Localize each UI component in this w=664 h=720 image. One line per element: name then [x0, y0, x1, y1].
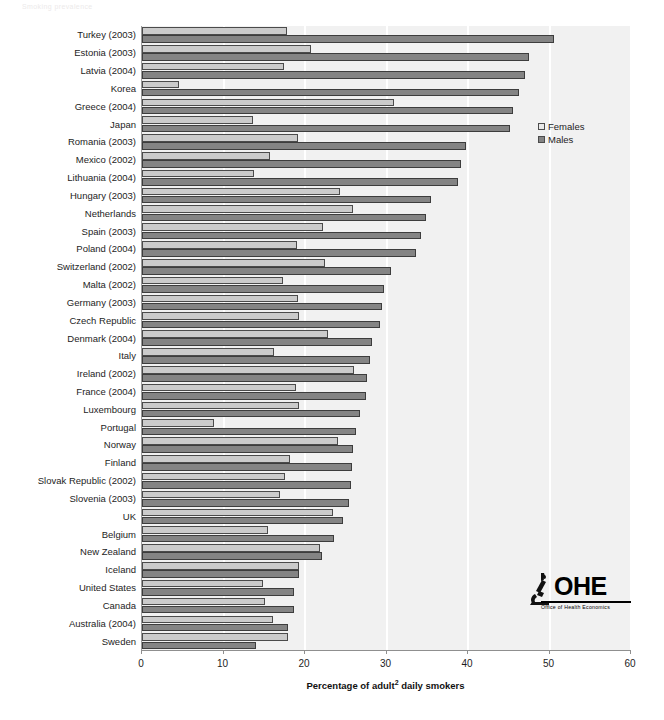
- bar-males[interactable]: [142, 410, 360, 418]
- y-axis-label: Belgium: [0, 529, 136, 540]
- bar-males[interactable]: [142, 89, 519, 97]
- bar-males[interactable]: [142, 552, 322, 560]
- bar-females[interactable]: [142, 455, 290, 463]
- bar-males[interactable]: [142, 142, 466, 150]
- y-axis-label: New Zealand: [0, 546, 136, 557]
- y-axis-label: Denmark (2004): [0, 333, 136, 344]
- bar-females[interactable]: [142, 277, 283, 285]
- bar-males[interactable]: [142, 517, 343, 525]
- bar-males[interactable]: [142, 285, 384, 293]
- x-tick-mark-50: [549, 650, 550, 654]
- bar-females[interactable]: [142, 170, 254, 178]
- bar-females[interactable]: [142, 598, 265, 606]
- bar-males[interactable]: [142, 35, 554, 43]
- bar-females[interactable]: [142, 437, 338, 445]
- bar-males[interactable]: [142, 356, 370, 364]
- bar-males[interactable]: [142, 606, 294, 614]
- bar-females[interactable]: [142, 544, 320, 552]
- bar-females[interactable]: [142, 27, 287, 35]
- bar-males[interactable]: [142, 338, 372, 346]
- x-tick-mark-20: [304, 650, 305, 654]
- bar-females[interactable]: [142, 99, 394, 107]
- x-tick-label-50: 50: [529, 658, 569, 669]
- bar-females[interactable]: [142, 116, 253, 124]
- bar-females[interactable]: [142, 526, 268, 534]
- bar-females[interactable]: [142, 241, 297, 249]
- y-axis-label: Luxembourg: [0, 404, 136, 415]
- bar-males[interactable]: [142, 321, 380, 329]
- bar-males[interactable]: [142, 499, 349, 507]
- bar-males[interactable]: [142, 267, 391, 275]
- bar-females[interactable]: [142, 509, 333, 517]
- bar-males[interactable]: [142, 53, 529, 61]
- y-axis-label: Portugal: [0, 422, 136, 433]
- bar-males[interactable]: [142, 374, 367, 382]
- bar-females[interactable]: [142, 384, 296, 392]
- bar-males[interactable]: [142, 481, 351, 489]
- bar-females[interactable]: [142, 45, 311, 53]
- bar-females[interactable]: [142, 63, 284, 71]
- bar-males[interactable]: [142, 588, 294, 596]
- y-axis-label: Netherlands: [0, 208, 136, 219]
- bar-males[interactable]: [142, 445, 353, 453]
- bar-females[interactable]: [142, 473, 285, 481]
- y-axis-label: Latvia (2004): [0, 65, 136, 76]
- ohe-logo: OHE Office of Health Economics: [527, 570, 633, 616]
- y-axis-label: Canada: [0, 600, 136, 611]
- bar-females[interactable]: [142, 259, 325, 267]
- y-axis-label: Australia (2004): [0, 618, 136, 629]
- bar-males[interactable]: [142, 196, 431, 204]
- bar-females[interactable]: [142, 330, 328, 338]
- bar-males[interactable]: [142, 624, 288, 632]
- bar-females[interactable]: [142, 223, 323, 231]
- bar-males[interactable]: [142, 214, 426, 222]
- y-axis-label: Slovak Republic (2002): [0, 475, 136, 486]
- bar-males[interactable]: [142, 232, 421, 240]
- bar-row: [142, 222, 631, 240]
- x-axis-title-suffix: daily smokers: [399, 680, 465, 691]
- bar-females[interactable]: [142, 580, 263, 588]
- y-axis-label: Greece (2004): [0, 101, 136, 112]
- y-axis-label: Sweden: [0, 636, 136, 647]
- bar-females[interactable]: [142, 81, 179, 89]
- bar-males[interactable]: [142, 249, 416, 257]
- y-axis-label: Norway: [0, 439, 136, 450]
- bar-males[interactable]: [142, 303, 382, 311]
- bar-females[interactable]: [142, 295, 298, 303]
- bar-row: [142, 44, 631, 62]
- bar-males[interactable]: [142, 463, 352, 471]
- bar-females[interactable]: [142, 152, 270, 160]
- bar-row: [142, 240, 631, 258]
- bar-females[interactable]: [142, 491, 280, 499]
- bar-females[interactable]: [142, 633, 288, 641]
- bar-males[interactable]: [142, 392, 366, 400]
- bar-females[interactable]: [142, 205, 353, 213]
- bar-males[interactable]: [142, 570, 299, 578]
- bar-females[interactable]: [142, 402, 299, 410]
- bar-males[interactable]: [142, 178, 458, 186]
- bar-females[interactable]: [142, 188, 340, 196]
- x-tick-mark-40: [467, 650, 468, 654]
- bar-males[interactable]: [142, 642, 256, 650]
- logo-acronym: OHE: [554, 573, 607, 599]
- bar-females[interactable]: [142, 562, 299, 570]
- bar-females[interactable]: [142, 348, 274, 356]
- bar-row: [142, 614, 631, 632]
- bar-row: [142, 347, 631, 365]
- bar-females[interactable]: [142, 134, 298, 142]
- bar-males[interactable]: [142, 71, 525, 79]
- bar-females[interactable]: [142, 366, 354, 374]
- bar-row: [142, 62, 631, 80]
- bar-females[interactable]: [142, 312, 299, 320]
- bar-males[interactable]: [142, 125, 510, 133]
- bar-row: [142, 436, 631, 454]
- bar-row: [142, 186, 631, 204]
- bar-males[interactable]: [142, 535, 334, 543]
- bar-males[interactable]: [142, 428, 356, 436]
- bar-males[interactable]: [142, 160, 461, 168]
- bar-row: [142, 507, 631, 525]
- bar-females[interactable]: [142, 419, 214, 427]
- bar-females[interactable]: [142, 616, 273, 624]
- bar-males[interactable]: [142, 107, 513, 115]
- y-axis-label: Finland: [0, 457, 136, 468]
